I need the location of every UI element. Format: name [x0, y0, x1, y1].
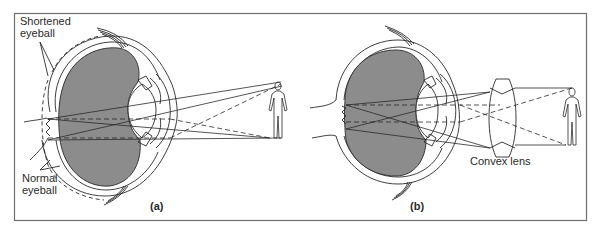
- shortened-pointer: [40, 42, 54, 76]
- normal-eyeball-label: Normal eyeball: [22, 172, 57, 196]
- panel-a: [24, 28, 287, 205]
- vitreous-b: [345, 50, 427, 176]
- person-figure-b: [563, 88, 581, 145]
- shortened-label-line1: Shortened: [20, 15, 71, 27]
- normal-label-line1: Normal: [22, 172, 57, 184]
- shortened-eyeball-label: Shortened eyeball: [20, 15, 71, 39]
- convex-lens-label: Convex lens: [470, 155, 531, 167]
- panel-a-caption: (a): [150, 200, 163, 212]
- vitreous-a: [59, 48, 141, 186]
- panel-b: [310, 26, 581, 200]
- muscle-bottom-b: [392, 182, 412, 200]
- person-figure-a: [269, 82, 287, 138]
- optic-nerve-b: [310, 100, 336, 108]
- panel-b-caption: (b): [410, 200, 424, 212]
- eye-diagram: [0, 0, 600, 232]
- muscle-top-b: [385, 26, 414, 46]
- muscle-top-a: [97, 28, 128, 48]
- optic-nerve-a: [24, 118, 46, 122]
- convex-lens: [489, 79, 516, 157]
- cornea-a: [156, 74, 170, 148]
- figure: Shortened eyeball Normal eyeball Convex …: [0, 0, 600, 232]
- normal-label-line2: eyeball: [22, 184, 57, 196]
- shortened-label-line2: eyeball: [20, 27, 71, 39]
